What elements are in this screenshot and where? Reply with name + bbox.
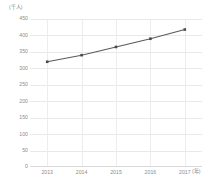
data-point-marker xyxy=(46,60,49,63)
data-point-marker xyxy=(115,46,118,49)
data-point-marker xyxy=(184,28,187,31)
y-tick-label: 100 xyxy=(2,132,28,137)
x-tick-label: 2015 xyxy=(110,170,122,175)
x-tick-label: 2016 xyxy=(145,170,157,175)
y-tick-label: 150 xyxy=(2,115,28,120)
y-tick-label: 200 xyxy=(2,99,28,104)
y-tick-label: 450 xyxy=(2,16,28,21)
y-tick-label: 250 xyxy=(2,82,28,87)
x-tick-label: 2017 xyxy=(179,170,191,175)
y-tick-label: 400 xyxy=(2,33,28,38)
y-tick-label: 300 xyxy=(2,66,28,71)
series-line xyxy=(47,30,185,62)
x-tick-label: 2014 xyxy=(76,170,88,175)
data-series xyxy=(30,19,202,167)
y-axis-unit-label: (千人) xyxy=(9,5,22,10)
y-tick-label: 0 xyxy=(2,164,28,169)
y-axis-tick-labels: 050100150200250300350400450 xyxy=(0,19,28,167)
x-tick-label: 2013 xyxy=(41,170,53,175)
plot-area xyxy=(30,19,202,167)
x-axis-tick-labels: 20132014201520162017 xyxy=(30,170,202,182)
data-point-marker xyxy=(149,37,152,40)
data-point-marker xyxy=(80,54,83,57)
y-tick-label: 50 xyxy=(2,148,28,153)
y-tick-label: 350 xyxy=(2,49,28,54)
line-chart: (千人) (年) 050100150200250300350400450 201… xyxy=(0,0,209,189)
